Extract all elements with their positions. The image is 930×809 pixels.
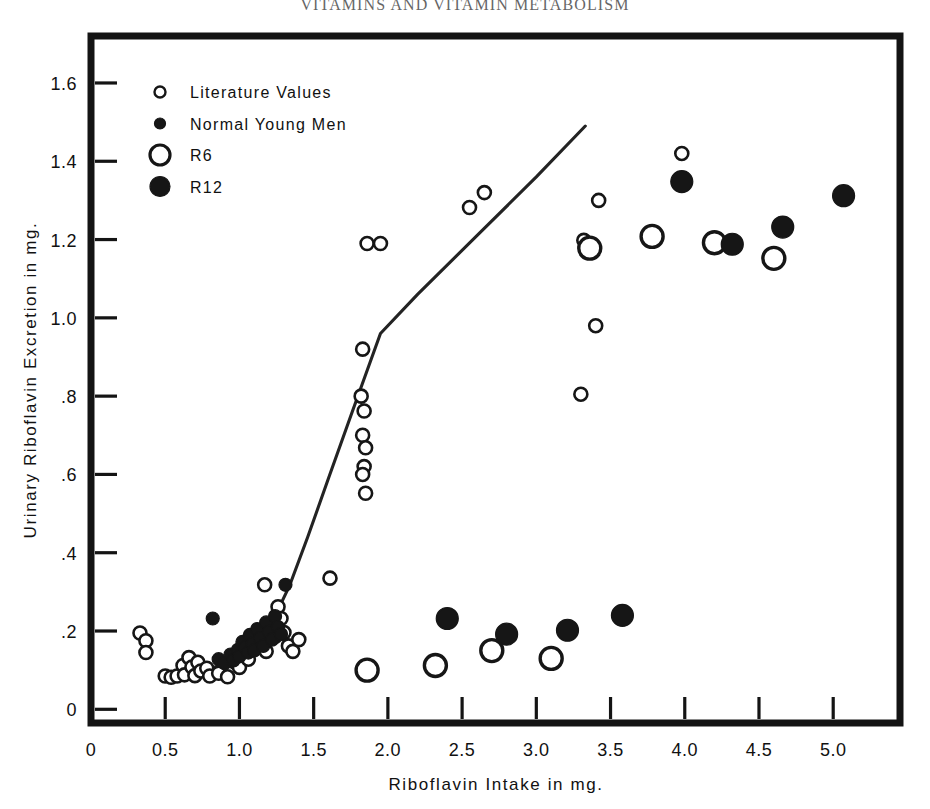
x-tick-label: 1.0 [226,740,253,760]
data-point [579,237,601,259]
data-point [275,628,288,641]
data-point [221,670,234,683]
data-point [139,646,152,659]
legend-marker-r12 [150,177,170,197]
y-tick-label: .4 [61,544,77,564]
data-point [772,216,794,238]
data-point [463,201,476,214]
data-point [356,468,369,481]
x-tick-label: 5.0 [820,740,847,760]
legend-marker-r6 [150,145,170,165]
legend-marker-literature-values [155,87,166,98]
y-tick-label: 1.4 [50,152,77,172]
y-tick-label: 1.0 [50,309,77,329]
data-point [540,647,562,669]
x-tick-label: 3.0 [523,740,550,760]
data-point [675,147,688,160]
data-point [356,659,378,681]
legend-label-literature-values: Literature Values [190,84,332,101]
legend-label-r12: R12 [190,179,223,196]
data-point [258,578,271,591]
riboflavin-scatter-figure: VITAMINS AND VITAMIN METABOLISM 00.51.01… [0,0,930,809]
x-tick-label: 3.5 [597,740,624,760]
data-point [356,429,369,442]
x-axis-title: Riboflavin Intake in mg. [388,775,603,794]
data-point [355,390,368,403]
data-point [763,247,785,269]
data-point [671,171,693,193]
data-point [374,237,387,250]
x-tick-label: 4.5 [746,740,773,760]
data-point [359,441,372,454]
data-point [206,612,219,625]
x-tick-label: 1.5 [300,740,327,760]
y-axis-title: Urinary Riboflavin Excretion in mg. [21,222,40,539]
fitted-regression-curve [172,126,585,677]
data-points-layer [133,147,854,684]
y-tick-label: .8 [61,387,77,407]
y-axis-ticks [95,83,117,709]
y-axis-tick-labels: 0.2.4.6.81.01.21.41.6 [50,74,77,720]
data-point [641,225,663,247]
data-point [556,619,578,641]
data-point [361,237,374,250]
data-point [833,185,855,207]
data-point [424,654,446,676]
data-point [592,194,605,207]
data-point [359,487,372,500]
chart-canvas: 00.51.01.52.02.53.03.54.04.55.0 0.2.4.6.… [0,0,930,809]
data-point [356,343,369,356]
series-literature-values [133,147,688,684]
data-point [574,388,587,401]
data-point [611,604,633,626]
chart-legend: Literature ValuesNormal Young MenR6R12 [150,84,347,197]
x-tick-label: 2.5 [449,740,476,760]
x-axis-tick-labels: 00.51.01.52.02.53.03.54.04.55.0 [86,740,847,760]
x-tick-label: 0.5 [152,740,179,760]
data-point [358,405,371,418]
data-point [721,233,743,255]
x-tick-label: 4.0 [671,740,698,760]
x-tick-label: 2.0 [375,740,402,760]
data-point [589,319,602,332]
y-tick-label: .2 [61,622,77,642]
x-axis-ticks [165,697,833,719]
legend-marker-normal-young-men [155,118,166,129]
data-point [323,572,336,585]
series-r6 [356,225,785,681]
y-tick-label: 1.2 [50,231,77,251]
data-point [436,607,458,629]
data-point [279,578,292,591]
data-point [496,623,518,645]
legend-label-normal-young-men: Normal Young Men [190,116,347,133]
data-point [478,186,491,199]
running-head: VITAMINS AND VITAMIN METABOLISM [0,0,930,10]
legend-label-r6: R6 [190,147,213,164]
data-point [292,633,305,646]
series-normal-young-men [206,578,292,669]
y-tick-label: 1.6 [50,74,77,94]
y-tick-label: .6 [61,465,77,485]
y-tick-label: 0 [66,700,77,720]
x-tick-label: 0 [86,740,97,760]
